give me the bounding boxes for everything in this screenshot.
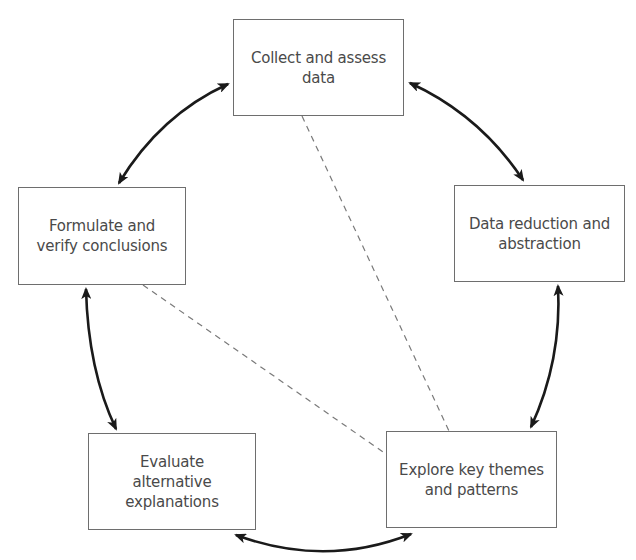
double-arrow-reduce-explore (531, 286, 558, 427)
cycle-diagram: Collect and assess data Data reduction a… (0, 0, 636, 560)
node-label-line: Explore key themes (399, 460, 544, 480)
double-arrow-evaluate-formulate (86, 289, 116, 429)
dashed-link-formulate-explore (143, 285, 386, 454)
node-label-line: Evaluate (125, 452, 219, 472)
node-evaluate-alternative-explanations: Evaluate alternative explanations (88, 433, 256, 530)
node-label-line: data (251, 68, 386, 88)
node-data-reduction-and-abstraction: Data reduction and abstraction (454, 185, 625, 282)
node-formulate-and-verify-conclusions: Formulate and verify conclusions (18, 187, 186, 285)
node-label-line: Data reduction and (469, 214, 610, 234)
double-arrow-explore-evaluate (236, 534, 411, 551)
node-label-line: abstraction (469, 234, 610, 254)
node-label-line: alternative (125, 472, 219, 492)
node-label-line: and patterns (399, 480, 544, 500)
node-label-line: Collect and assess (251, 48, 386, 68)
node-label-line: verify conclusions (37, 236, 168, 256)
double-arrow-formulate-collect (119, 84, 228, 183)
node-label-line: explanations (125, 492, 219, 512)
node-label-line: Formulate and (37, 216, 168, 236)
node-label: Evaluate alternative explanations (125, 452, 219, 512)
node-collect-and-assess-data: Collect and assess data (233, 19, 404, 116)
dashed-link-collect-explore (302, 116, 449, 431)
node-label: Formulate and verify conclusions (37, 216, 168, 256)
node-label: Data reduction and abstraction (469, 214, 610, 254)
dashed-links (143, 116, 449, 454)
node-label: Explore key themes and patterns (399, 460, 544, 500)
double-arrow-collect-reduce (410, 83, 523, 180)
node-label: Collect and assess data (251, 48, 386, 88)
node-explore-key-themes-and-patterns: Explore key themes and patterns (386, 431, 557, 528)
